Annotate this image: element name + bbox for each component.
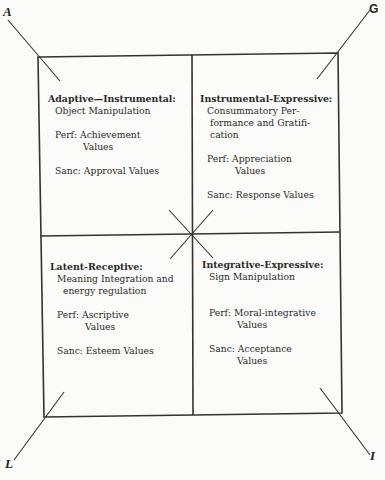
corner-label-l: L xyxy=(5,456,13,472)
axis-line-a xyxy=(8,20,60,81)
diagram-lines xyxy=(0,0,385,480)
quadrant-title: Integrative-Expressive: xyxy=(202,259,323,271)
quadrant-desc: Object Manipulation xyxy=(48,105,176,117)
quadrant-title: Latent-Receptive: xyxy=(50,261,174,273)
quadrant-desc: Sign Manipulation xyxy=(202,271,323,283)
perf-value: Achievement xyxy=(80,129,140,140)
sanc-label: Sanc: xyxy=(209,343,235,354)
quadrant-desc-cont: cation xyxy=(200,129,332,141)
quadrant-title: Instrumental-Expressive: xyxy=(200,93,332,105)
perf-value-cont: Values xyxy=(48,141,176,153)
quadrant-desc-cont: energy regulation xyxy=(50,285,174,297)
axis-line-g xyxy=(317,10,370,79)
quadrant-latent-receptive: Latent-Receptive: Meaning Integration an… xyxy=(50,261,174,357)
quadrant-adaptive-instrumental: Adaptive—Instrumental: Object Manipulati… xyxy=(48,93,176,177)
sanc-value-cont: Values xyxy=(202,355,323,367)
quadrant-instrumental-expressive: Instrumental-Expressive: Consummatory Pe… xyxy=(200,93,332,201)
perf-value: Ascriptive xyxy=(82,309,129,320)
sanc-label: Sanc: xyxy=(207,189,233,200)
sanc-label: Sanc: xyxy=(55,165,81,176)
perf-label: Perf: xyxy=(57,309,79,320)
perf-label: Perf: xyxy=(207,153,229,164)
perf-value: Appreciation xyxy=(232,153,292,164)
quadrant-desc: Meaning Integration and xyxy=(50,273,174,285)
corner-label-g: G xyxy=(369,2,378,16)
sanc-label: Sanc: xyxy=(57,345,83,356)
perf-label: Perf: xyxy=(209,307,231,318)
sanc-value: Acceptance xyxy=(238,343,292,354)
perf-value-cont: Values xyxy=(202,319,323,331)
axis-line-l xyxy=(14,392,64,460)
sanc-value: Esteem Values xyxy=(86,345,154,356)
corner-label-i: I xyxy=(370,448,375,464)
quadrant-desc-cont: formance and Gratifi- xyxy=(200,117,332,129)
axis-line-i xyxy=(320,388,370,455)
quadrant-integrative-expressive: Integrative-Expressive: Sign Manipulatio… xyxy=(202,259,323,367)
perf-label: Perf: xyxy=(55,129,77,140)
quadrant-desc: Consummatory Per- xyxy=(200,105,332,117)
sanc-value: Approval Values xyxy=(84,165,159,176)
perf-value-cont: Values xyxy=(200,165,332,177)
quadrant-title: Adaptive—Instrumental: xyxy=(48,93,176,105)
perf-value: Moral-integrative xyxy=(234,307,316,318)
corner-label-a: A xyxy=(3,4,12,20)
perf-value-cont: Values xyxy=(50,321,174,333)
sanc-value: Response Values xyxy=(236,189,314,200)
